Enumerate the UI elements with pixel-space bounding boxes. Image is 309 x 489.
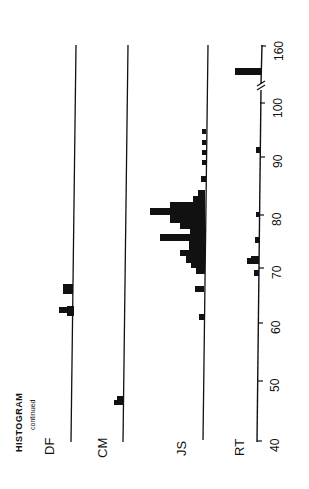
tick-label-40: 40 xyxy=(268,439,282,452)
tick-label-80: 80 xyxy=(270,213,284,226)
tick-label-100: 100 xyxy=(271,98,285,118)
figure-title: HISTOGRAM xyxy=(14,393,24,452)
row-label-rt: RT xyxy=(232,439,247,456)
df-bars xyxy=(59,284,74,316)
tick-label-90: 90 xyxy=(271,155,285,168)
tick-label-60: 60 xyxy=(269,321,283,334)
df-baseline xyxy=(71,45,76,442)
row-label-df: DF xyxy=(42,438,57,455)
js-bars xyxy=(150,129,206,320)
tick-label-160: 160 xyxy=(272,41,286,61)
histogram-figure xyxy=(0,0,309,489)
tick-label-70: 70 xyxy=(270,266,284,279)
rt-axis-upper xyxy=(261,45,262,84)
tick-label-50: 50 xyxy=(268,379,282,392)
row-label-js: JS xyxy=(174,441,189,456)
row-label-cm: CM xyxy=(95,438,110,458)
figure-subtitle: continued xyxy=(29,400,36,430)
cm-baseline xyxy=(123,45,128,442)
rt-axis-lower xyxy=(257,90,261,442)
rt-bars xyxy=(235,68,262,276)
cm-bars xyxy=(114,396,124,405)
